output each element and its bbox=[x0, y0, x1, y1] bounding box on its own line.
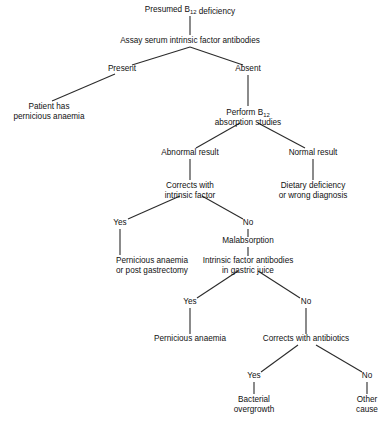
edge-label-no-intrinsic: No bbox=[243, 218, 254, 227]
node-bacterial-overgrowth-line-1: Bacterial bbox=[238, 395, 270, 404]
node-other-cause: Othercause bbox=[356, 395, 378, 414]
edge-label-no-antibiotics: No bbox=[362, 371, 373, 380]
node-corrects-antibiotics-line-1: Corrects with antibiotics bbox=[263, 334, 349, 343]
connector-assay-to-absent bbox=[190, 47, 243, 65]
node-pernicious-or-gastrectomy-line-1: Pernicious anaemia bbox=[116, 256, 188, 265]
node-perform-absorption-line-2: absorption studies bbox=[215, 118, 281, 127]
edge-label-normal-result: Normal result bbox=[289, 148, 338, 157]
node-assay: Assay serum intrinsic factor antibodies bbox=[120, 36, 260, 45]
node-corrects-intrinsic-line-2: intrinsic factor bbox=[165, 191, 216, 200]
node-dietary-deficiency-line-2: or wrong diagnosis bbox=[279, 191, 348, 200]
node-other-cause-line-1: Other bbox=[357, 395, 378, 404]
connector-intrinsic-to-yes bbox=[197, 271, 238, 298]
node-dietary-deficiency-line-1: Dietary deficiency bbox=[281, 181, 347, 190]
node-patient-has-pernicious-line-1: Patient has bbox=[29, 102, 70, 111]
node-perform-absorption: Perform B12absorption studies bbox=[215, 108, 281, 127]
node-perform-absorption-line-1: Perform B12 bbox=[226, 108, 269, 118]
node-pernicious-or-gastrectomy: Pernicious anaemiaor post gastrectomy bbox=[116, 256, 189, 275]
edge-label-abnormal-result: Abnormal result bbox=[161, 148, 219, 157]
node-malabsorption: Malabsorption bbox=[222, 236, 274, 245]
edge-label-yes-intrinsic: Yes bbox=[113, 218, 126, 227]
node-assay-line-1: Assay serum intrinsic factor antibodies bbox=[120, 36, 260, 45]
flowchart-canvas: Presumed B12 deficiencyAssay serum intri… bbox=[0, 0, 384, 422]
node-patient-has-pernicious-line-2: pernicious anaemia bbox=[13, 112, 84, 121]
node-bacterial-overgrowth: Bacterialovergrowth bbox=[234, 395, 275, 414]
edge-label-yes-antibiotics: Yes bbox=[247, 371, 260, 380]
node-corrects-intrinsic: Corrects withintrinsic factor bbox=[165, 181, 216, 200]
connector-antibiotics-to-no bbox=[316, 345, 362, 372]
node-pernicious-anaemia-final-line-1: Pernicious anaemia bbox=[154, 334, 226, 343]
connector-present-to-patient bbox=[52, 74, 115, 101]
node-intrinsic-gastric-juice-line-1: Intrinsic factor antibodies bbox=[203, 256, 294, 265]
node-corrects-intrinsic-line-1: Corrects with bbox=[166, 181, 214, 190]
node-bacterial-overgrowth-line-2: overgrowth bbox=[234, 405, 275, 414]
edge-label-yes-gastric: Yes bbox=[183, 297, 196, 306]
node-presumed-line-1: Presumed B12 deficiency bbox=[145, 5, 236, 16]
flowchart-svg: Presumed B12 deficiencyAssay serum intri… bbox=[0, 0, 384, 422]
node-malabsorption-line-1: Malabsorption bbox=[222, 236, 274, 245]
edge-label-absent: Absent bbox=[235, 64, 261, 73]
node-labels-group: Presumed B12 deficiencyAssay serum intri… bbox=[13, 5, 378, 414]
node-intrinsic-gastric-juice-line-2: in gastric juice bbox=[222, 266, 274, 275]
node-corrects-antibiotics: Corrects with antibiotics bbox=[263, 334, 349, 343]
connector-intrinsic-to-no bbox=[258, 271, 300, 298]
node-pernicious-anaemia-final: Pernicious anaemia bbox=[154, 334, 226, 343]
edge-label-no-gastric: No bbox=[301, 297, 312, 306]
node-pernicious-or-gastrectomy-line-2: or post gastrectomy bbox=[116, 266, 189, 275]
node-dietary-deficiency: Dietary deficiencyor wrong diagnosis bbox=[279, 181, 348, 200]
node-patient-has-pernicious: Patient haspernicious anaemia bbox=[13, 102, 84, 121]
connector-antibiotics-to-yes bbox=[261, 345, 298, 372]
node-other-cause-line-2: cause bbox=[356, 405, 378, 414]
connector-assay-to-present bbox=[132, 47, 190, 65]
node-presumed: Presumed B12 deficiency bbox=[145, 5, 236, 16]
node-intrinsic-gastric-juice: Intrinsic factor antibodiesin gastric ju… bbox=[203, 256, 294, 275]
edge-label-present: Present bbox=[108, 64, 137, 73]
